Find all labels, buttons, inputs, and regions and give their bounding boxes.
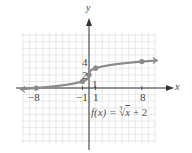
data-point bbox=[93, 66, 98, 71]
x-tick-1: 1 bbox=[93, 92, 99, 103]
graph-canvas bbox=[0, 0, 192, 153]
data-point bbox=[139, 59, 144, 64]
formula-tail: + 2 bbox=[130, 106, 147, 118]
y-tick-1: 1 bbox=[92, 79, 98, 90]
y-axis-label: y bbox=[86, 3, 90, 13]
x-axis-label: x bbox=[175, 82, 179, 92]
formula-fx: f(x) = bbox=[91, 106, 119, 118]
y-tick-4: 4 bbox=[82, 57, 88, 68]
function-label: f(x) = 3√x + 2 bbox=[91, 105, 147, 118]
x-tick-neg1: −1 bbox=[76, 92, 88, 103]
x-tick-neg8: −8 bbox=[28, 92, 40, 103]
data-point bbox=[34, 85, 39, 90]
y-tick-2: 2 bbox=[82, 70, 88, 81]
x-tick-8: 8 bbox=[140, 92, 146, 103]
